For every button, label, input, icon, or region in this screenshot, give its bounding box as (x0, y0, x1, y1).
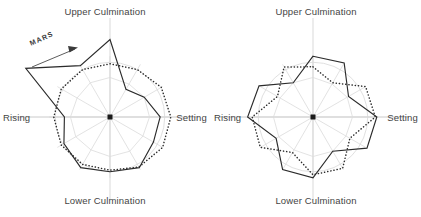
label-upper-culmination: Upper Culmination (275, 7, 356, 17)
radial-spoke (110, 64, 140, 117)
radial-spoke (57, 117, 110, 147)
label-setting: Setting (387, 113, 418, 123)
mars-arrow-icon (32, 46, 78, 67)
radial-spoke (283, 117, 313, 170)
radial-spoke (313, 87, 366, 117)
polar-chart-right: Upper Culmination Lower Culmination Risi… (211, 0, 421, 217)
data-layer-left (26, 39, 171, 171)
label-lower-culmination: Lower Culmination (64, 196, 145, 206)
center-marker (108, 115, 113, 120)
radial-spoke (313, 64, 343, 117)
radial-spoke (57, 87, 110, 117)
solid-curve (26, 39, 160, 171)
radial-spoke (313, 117, 366, 147)
label-rising: Rising (214, 113, 241, 123)
label-lower-culmination: Lower Culmination (275, 196, 356, 206)
polar-diagram-figure: MARS Upper Culmination Lower Culmination… (0, 0, 421, 217)
radial-spoke (110, 117, 163, 147)
polar-chart-left: MARS Upper Culmination Lower Culmination… (0, 0, 210, 217)
radial-spoke (80, 117, 110, 170)
radial-spoke (283, 64, 313, 117)
radial-spoke (313, 117, 343, 170)
radial-spoke (80, 64, 110, 117)
grid-layer-left (10, 18, 200, 200)
label-upper-culmination: Upper Culmination (64, 7, 145, 17)
label-rising: Rising (3, 113, 30, 123)
polar-plot-right-svg (211, 0, 421, 217)
label-setting: Setting (176, 113, 207, 123)
radial-spoke (110, 117, 140, 170)
grid-layer-right (219, 18, 409, 200)
radial-spoke (260, 87, 313, 117)
polar-plot-left-svg (0, 0, 210, 217)
dotted-curve (252, 67, 375, 175)
center-marker (311, 115, 316, 120)
radial-spoke (110, 87, 163, 117)
